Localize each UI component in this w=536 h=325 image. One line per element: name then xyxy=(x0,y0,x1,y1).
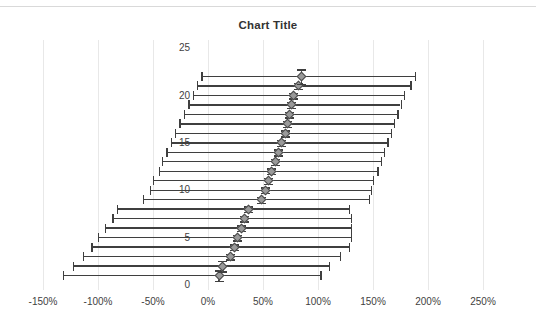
x-error-bar xyxy=(83,256,340,257)
x-error-cap-high xyxy=(415,72,416,81)
x-error-cap-high xyxy=(340,252,341,261)
x-axis-tick-neg150: -150% xyxy=(13,296,73,307)
x-error-cap-low xyxy=(63,271,64,280)
x-error-cap-high xyxy=(377,167,378,176)
data-series xyxy=(0,40,536,290)
plot-area xyxy=(0,40,536,290)
x-error-cap-high xyxy=(371,186,372,195)
x-error-cap-high xyxy=(410,81,411,90)
x-axis-tick-100: 100% xyxy=(288,296,348,307)
page-title: Chart Title xyxy=(0,19,536,31)
x-error-cap-low xyxy=(201,72,202,81)
chart-screenshot: Chart Title 0510152025 -150%-100%-50%0%5… xyxy=(0,0,536,325)
x-error-bar xyxy=(117,208,349,209)
x-axis-tick-150: 150% xyxy=(343,296,403,307)
x-error-cap-high xyxy=(401,100,402,109)
x-axis-tick-200: 200% xyxy=(398,296,458,307)
x-error-cap-low xyxy=(112,214,113,223)
x-error-cap-high xyxy=(320,271,321,280)
x-error-cap-high xyxy=(351,214,352,223)
x-error-cap-high xyxy=(369,195,370,204)
x-error-bar xyxy=(197,85,410,86)
x-error-cap-low xyxy=(91,243,92,252)
x-error-bar xyxy=(201,76,414,77)
x-axis-tick-50: 50% xyxy=(233,296,293,307)
x-error-cap-low xyxy=(73,262,74,271)
x-error-cap-low xyxy=(166,148,167,157)
x-error-cap-high xyxy=(349,243,350,252)
y-axis-tick-5: 5 xyxy=(166,232,190,243)
x-error-cap-high xyxy=(349,205,350,214)
x-error-bar xyxy=(105,227,351,228)
x-axis-tick-250: 250% xyxy=(453,296,513,307)
x-error-cap-low xyxy=(117,205,118,214)
x-error-cap-low xyxy=(184,110,185,119)
x-error-bar xyxy=(98,237,351,238)
x-error-cap-low xyxy=(105,224,106,233)
x-error-cap-high xyxy=(329,262,330,271)
x-error-cap-high xyxy=(404,91,405,100)
x-error-cap-high xyxy=(394,119,395,128)
x-error-cap-low xyxy=(153,176,154,185)
y-axis-tick-0: 0 xyxy=(166,279,190,290)
x-error-cap-low xyxy=(143,195,144,204)
top-divider xyxy=(0,6,536,7)
x-error-cap-high xyxy=(397,110,398,119)
x-error-cap-low xyxy=(197,81,198,90)
y-error-cap-high xyxy=(297,69,306,70)
x-error-cap-high xyxy=(387,138,388,147)
x-error-cap-low xyxy=(162,157,163,166)
x-error-bar xyxy=(73,265,329,266)
x-error-bar xyxy=(91,246,348,247)
x-error-cap-low xyxy=(159,167,160,176)
x-error-cap-high xyxy=(391,129,392,138)
x-error-cap-low xyxy=(150,186,151,195)
y-axis-tick-25: 25 xyxy=(166,42,190,53)
x-axis-tick-neg100: -100% xyxy=(68,296,128,307)
x-error-cap-high xyxy=(381,157,382,166)
x-error-cap-high xyxy=(351,224,352,233)
x-axis-tick-neg50: -50% xyxy=(123,296,183,307)
x-error-cap-low xyxy=(98,233,99,242)
x-axis-tick-0: 0% xyxy=(178,296,238,307)
x-error-bar xyxy=(63,275,320,276)
x-error-cap-high xyxy=(384,148,385,157)
y-axis-tick-10: 10 xyxy=(166,184,190,195)
x-error-cap-high xyxy=(351,233,352,242)
x-error-cap-low xyxy=(179,119,180,128)
x-error-cap-low xyxy=(83,252,84,261)
x-error-cap-low xyxy=(193,91,194,100)
y-axis-tick-20: 20 xyxy=(166,90,190,101)
y-error-cap-low xyxy=(297,84,306,85)
x-error-cap-low xyxy=(188,100,189,109)
x-error-bar xyxy=(112,218,351,219)
x-error-cap-high xyxy=(373,176,374,185)
y-axis-tick-15: 15 xyxy=(166,137,190,148)
